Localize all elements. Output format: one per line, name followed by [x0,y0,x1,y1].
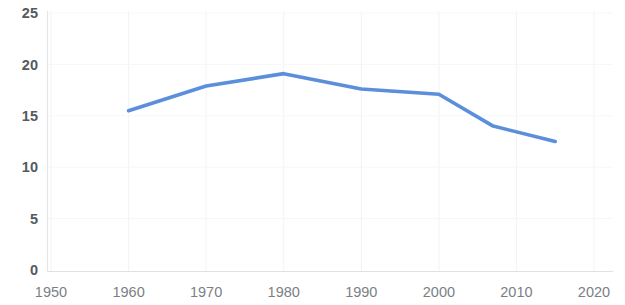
x-axis-tick-label: 2020 [578,284,610,300]
x-axis-tick-labels: 19501960197019801990200020102020 [35,284,610,300]
x-axis-tick-label: 1980 [268,284,300,300]
data-series-line [129,74,556,142]
x-axis-tick-label: 1990 [345,284,377,300]
y-axis-tick-label: 5 [30,211,38,227]
x-axis-tick-label: 1970 [190,284,222,300]
line-chart: 0510152025 19501960197019801990200020102… [0,0,625,305]
x-axis-tick-label: 1960 [112,284,144,300]
x-axis-tick-label: 1950 [35,284,67,300]
y-axis-tick-label: 0 [30,262,38,278]
x-axis-tick-label: 2000 [423,284,455,300]
y-axis-tick-label: 15 [22,108,38,124]
x-axis-tick-label: 2010 [500,284,532,300]
y-axis-tick-labels: 0510152025 [22,5,38,278]
y-axis-tick-label: 25 [22,5,38,21]
chart-plot-area: 0510152025 19501960197019801990200020102… [0,0,625,305]
y-axis-tick-label: 10 [22,159,38,175]
horizontal-gridlines [48,13,614,219]
vertical-gridlines [51,11,594,272]
y-axis-tick-label: 20 [22,57,38,73]
